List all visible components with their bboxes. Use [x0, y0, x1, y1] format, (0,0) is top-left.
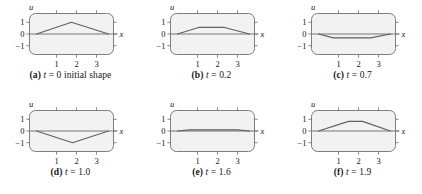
- caption-equals: =: [209, 70, 219, 80]
- xtick-label: 2: [356, 156, 360, 166]
- xtick-label: 1: [54, 156, 58, 166]
- ytick-label: −1: [297, 138, 306, 148]
- y-axis-label: u: [29, 99, 33, 109]
- caption-label: (e): [192, 167, 203, 177]
- panel-caption-c: (c) t = 0.7: [282, 70, 422, 80]
- ytick-label: 0: [302, 29, 306, 39]
- ytick-label: 0: [302, 126, 306, 136]
- xtick-label: 3: [376, 59, 380, 69]
- caption-label: (b): [192, 70, 204, 80]
- caption-value: 1.0: [78, 167, 90, 177]
- caption-equals: =: [46, 70, 56, 80]
- plot-area-a: ux10−1123: [0, 0, 141, 72]
- panel-caption-b: (b) t = 0.2: [141, 70, 282, 80]
- ytick-label: 1: [302, 114, 306, 124]
- ytick-label: 0: [161, 126, 165, 136]
- xtick-label: 1: [336, 156, 340, 166]
- caption-equals: =: [68, 167, 78, 177]
- chart-panel-e: ux10−1123(e) t = 1.6: [141, 97, 282, 194]
- x-axis-label: x: [401, 126, 406, 136]
- xtick-label: 2: [356, 59, 360, 69]
- xtick-label: 3: [94, 156, 98, 166]
- ytick-label: −1: [156, 41, 165, 51]
- caption-value: 1.9: [359, 167, 371, 177]
- x-axis-label: x: [401, 29, 406, 39]
- ytick-label: 1: [161, 114, 165, 124]
- y-axis-label: u: [170, 2, 174, 12]
- xtick-label: 1: [54, 59, 58, 69]
- caption-value: 0.2: [219, 70, 231, 80]
- plot-area-f: ux10−1123: [282, 97, 422, 169]
- x-axis-label: x: [119, 126, 124, 136]
- ytick-label: 1: [302, 17, 306, 27]
- xtick-label: 2: [74, 59, 78, 69]
- caption-equals: =: [208, 167, 218, 177]
- caption-value: 0.7: [360, 70, 372, 80]
- ytick-label: −1: [297, 41, 306, 51]
- plot-area-c: ux10−1123: [282, 0, 422, 72]
- xtick-label: 2: [215, 156, 219, 166]
- ytick-label: −1: [15, 138, 24, 148]
- ytick-label: 1: [161, 17, 165, 27]
- chart-panel-f: ux10−1123(f) t = 1.9: [282, 97, 422, 194]
- chart-panel-d: ux10−1123(d) t = 1.0: [0, 97, 141, 194]
- y-axis-label: u: [311, 99, 315, 109]
- caption-label: (c): [333, 70, 344, 80]
- xtick-label: 2: [215, 59, 219, 69]
- plot-area-d: ux10−1123: [0, 97, 141, 169]
- ytick-label: 1: [20, 17, 24, 27]
- y-axis-label: u: [29, 2, 33, 12]
- plot-svg-e: ux10−1123: [141, 97, 282, 169]
- x-axis-label: x: [260, 126, 265, 136]
- caption-equals: =: [349, 70, 359, 80]
- ytick-label: 0: [20, 29, 24, 39]
- plot-area-e: ux10−1123: [141, 97, 282, 169]
- caption-equals: =: [349, 167, 359, 177]
- y-axis-label: u: [170, 99, 174, 109]
- xtick-label: 3: [94, 59, 98, 69]
- ytick-label: 1: [20, 114, 24, 124]
- caption-label: (d): [51, 167, 63, 177]
- panel-caption-d: (d) t = 1.0: [0, 167, 141, 177]
- ytick-label: −1: [15, 41, 24, 51]
- caption-label: (f): [334, 167, 344, 177]
- x-axis-label: x: [119, 29, 124, 39]
- chart-panel-b: ux10−1123(b) t = 0.2: [141, 0, 282, 97]
- figure-wave-evolution: ux10−1123(a) t = 0 initial shapeux10−112…: [0, 0, 422, 194]
- plot-svg-f: ux10−1123: [282, 97, 422, 169]
- xtick-label: 2: [74, 156, 78, 166]
- xtick-label: 3: [376, 156, 380, 166]
- ytick-label: −1: [156, 138, 165, 148]
- caption-value: 1.6: [219, 167, 231, 177]
- xtick-label: 3: [235, 59, 239, 69]
- xtick-label: 1: [195, 156, 199, 166]
- chart-panel-a: ux10−1123(a) t = 0 initial shape: [0, 0, 141, 97]
- x-axis-label: x: [260, 29, 265, 39]
- panel-caption-f: (f) t = 1.9: [282, 167, 422, 177]
- xtick-label: 1: [195, 59, 199, 69]
- plot-svg-c: ux10−1123: [282, 0, 422, 72]
- xtick-label: 3: [235, 156, 239, 166]
- plot-svg-b: ux10−1123: [141, 0, 282, 72]
- y-axis-label: u: [311, 2, 315, 12]
- plot-svg-a: ux10−1123: [0, 0, 141, 72]
- chart-panel-c: ux10−1123(c) t = 0.7: [282, 0, 422, 97]
- plot-svg-d: ux10−1123: [0, 97, 141, 169]
- xtick-label: 1: [336, 59, 340, 69]
- plot-area-b: ux10−1123: [141, 0, 282, 72]
- ytick-label: 0: [20, 126, 24, 136]
- caption-label: (a): [30, 70, 41, 80]
- caption-suffix: initial shape: [61, 70, 111, 80]
- panel-caption-e: (e) t = 1.6: [141, 167, 282, 177]
- panel-caption-a: (a) t = 0 initial shape: [0, 70, 141, 80]
- ytick-label: 0: [161, 29, 165, 39]
